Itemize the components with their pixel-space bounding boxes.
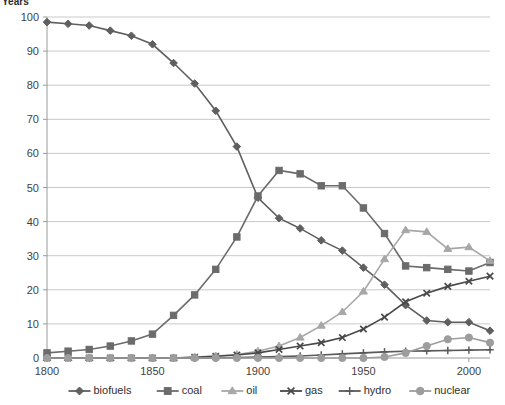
x-tick-label-1950: 1950 [351,365,375,377]
series-marker-biofuels-1820 [85,22,93,30]
y-tick-label-40: 40 [27,216,39,228]
legend-marker-nuclear [416,387,424,395]
series-marker-biofuels-1920 [296,225,304,233]
series-marker-nuclear-1920 [297,354,304,361]
series-marker-nuclear-1950 [360,354,367,361]
x-tick-labels-group: 18001850190019502000 [35,365,481,377]
series-marker-nuclear-1910 [275,354,282,361]
legend-label-oil: oil [246,384,257,396]
series-marker-coal-1860 [170,312,176,318]
series-marker-nuclear-1960 [381,353,388,360]
y-tick-labels-group: 0102030405060708090100 [21,11,39,364]
series-marker-nuclear-1820 [86,354,93,361]
series-marker-coal-1920 [297,171,303,177]
series-marker-coal-2000 [466,268,472,274]
legend-label-coal: coal [182,384,202,396]
legend-label-gas: gas [305,384,323,396]
x-tick-label-2000: 2000 [457,365,481,377]
gridlines-group [47,17,490,324]
series-marker-coal-1850 [149,331,155,337]
y-tick-label-30: 30 [27,250,39,262]
series-marker-biofuels-1830 [106,27,114,35]
series-marker-biofuels-1800 [43,18,51,26]
series-biofuels [43,18,494,334]
series-marker-nuclear-1970 [402,349,409,356]
x-tick-label-1900: 1900 [246,365,270,377]
series-marker-coal-1930 [318,183,324,189]
legend-label-hydro: hydro [364,384,392,396]
legend-entry-nuclear[interactable]: nuclear [409,384,470,396]
series-line-biofuels [47,22,490,331]
x-tick-label-1850: 1850 [140,365,164,377]
data-series-group [43,18,494,361]
series-marker-hydro-2010 [486,346,493,353]
y-tick-label-20: 20 [27,284,39,296]
series-marker-coal-1980 [424,264,430,270]
series-marker-nuclear-1850 [149,354,156,361]
series-marker-oil-1970 [402,226,410,233]
series-marker-gas-1950 [360,326,366,332]
series-marker-nuclear-2010 [486,339,493,346]
series-marker-biofuels-1890 [233,143,241,151]
legend-entry-gas[interactable]: gas [280,384,323,396]
series-marker-biofuels-1810 [64,20,72,28]
chart-canvas: 0102030405060708090100 18001850190019502… [0,0,505,405]
series-line-coal [47,170,490,352]
series-marker-nuclear-2000 [465,334,472,341]
series-marker-biofuels-1990 [444,318,452,326]
legend-marker-coal [164,388,171,395]
energy-share-line-chart: Years 0102030405060708090100 18001850190… [0,0,505,405]
y-tick-label-0: 0 [33,352,39,364]
series-marker-nuclear-1880 [212,354,219,361]
series-marker-hydro-2000 [465,346,472,353]
series-marker-nuclear-1840 [128,354,135,361]
y-tick-marks-group [43,17,47,358]
series-marker-nuclear-1810 [64,354,71,361]
legend-marker-biofuels [76,387,84,395]
series-marker-biofuels-2010 [486,327,494,335]
series-marker-coal-1970 [402,263,408,269]
legend-entry-oil[interactable]: oil [221,384,257,396]
series-marker-gas-1960 [381,314,387,320]
legend-label-nuclear: nuclear [434,384,470,396]
y-tick-label-80: 80 [27,79,39,91]
series-coal [44,167,493,356]
series-marker-nuclear-1900 [254,354,261,361]
series-marker-oil-2000 [465,243,473,250]
legend-entry-biofuels[interactable]: biofuels [69,384,132,396]
series-marker-coal-1820 [86,346,92,352]
series-marker-coal-1880 [213,266,219,272]
series-marker-coal-1950 [360,205,366,211]
series-marker-coal-1890 [234,234,240,240]
series-marker-coal-1840 [128,338,134,344]
y-tick-label-60: 60 [27,147,39,159]
legend-entry-coal[interactable]: coal [157,384,202,396]
series-marker-coal-1900 [255,193,261,199]
legend-entry-hydro[interactable]: hydro [339,384,392,396]
series-marker-biofuels-2000 [465,318,473,326]
series-marker-nuclear-1830 [107,354,114,361]
series-marker-oil-1930 [317,322,325,329]
legend-label-biofuels: biofuels [94,384,132,396]
series-marker-biofuels-1840 [128,32,136,40]
series-marker-coal-1940 [339,183,345,189]
y-tick-label-100: 100 [21,11,39,23]
series-marker-coal-1830 [107,343,113,349]
y-tick-label-50: 50 [27,182,39,194]
chart-legend: biofuelscoaloilgashydronuclear [69,384,471,396]
series-marker-nuclear-1860 [170,354,177,361]
series-marker-nuclear-1930 [318,354,325,361]
series-marker-nuclear-1890 [233,354,240,361]
y-tick-label-70: 70 [27,113,39,125]
y-tick-label-90: 90 [27,45,39,57]
x-tick-label-1800: 1800 [35,365,59,377]
series-marker-coal-1960 [381,230,387,236]
series-marker-nuclear-1800 [43,354,50,361]
series-marker-coal-1870 [191,292,197,298]
series-marker-biofuels-1930 [317,237,325,245]
series-marker-coal-1910 [276,167,282,173]
legend-marker-hydro [346,387,354,395]
y-tick-label-10: 10 [27,318,39,330]
series-marker-nuclear-1980 [423,342,430,349]
series-marker-nuclear-1940 [339,354,346,361]
